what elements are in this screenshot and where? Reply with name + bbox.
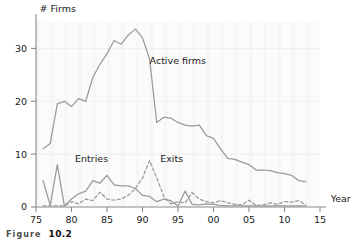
background-stripe bbox=[235, 22, 239, 207]
background-stripe bbox=[79, 22, 83, 207]
x-axis-ticks: 758085909500051015 bbox=[30, 207, 326, 225]
y-tick-label: 0 bbox=[21, 201, 27, 212]
series-label-entries: Entries bbox=[75, 153, 108, 164]
figure-caption-word: Figure bbox=[6, 230, 42, 239]
background-stripe bbox=[135, 22, 139, 207]
background-stripe bbox=[249, 22, 253, 207]
x-tick-label: 90 bbox=[136, 214, 148, 225]
line-chart: 0102030 758085909500051015 Active firmsE… bbox=[0, 0, 354, 246]
x-tick-label: 95 bbox=[172, 214, 184, 225]
background-stripe bbox=[178, 22, 182, 207]
background-stripes bbox=[36, 22, 320, 207]
figure-caption-number: 10.2 bbox=[49, 229, 72, 239]
x-tick-label: 85 bbox=[101, 214, 113, 225]
background-stripe bbox=[192, 22, 196, 207]
axis-title-year: Year bbox=[330, 193, 351, 204]
y-axis-ticks: 0102030 bbox=[15, 43, 36, 213]
x-tick-label: 80 bbox=[65, 214, 77, 225]
figure-caption: Figure 10.2 bbox=[6, 229, 72, 239]
x-tick-label: 10 bbox=[278, 214, 290, 225]
background-stripe bbox=[50, 22, 54, 207]
x-tick-label: 15 bbox=[314, 214, 326, 225]
series-label-active-firms: Active firms bbox=[150, 55, 206, 66]
y-tick-label: 20 bbox=[15, 96, 27, 107]
background-stripe bbox=[64, 22, 68, 207]
background-stripe bbox=[263, 22, 267, 207]
background-stripe bbox=[164, 22, 168, 207]
series-label-exits: Exits bbox=[160, 153, 183, 164]
axis-title-firms: # Firms bbox=[40, 3, 76, 14]
background-stripe bbox=[306, 22, 310, 207]
background-stripe bbox=[93, 22, 97, 207]
background-stripe bbox=[121, 22, 125, 207]
background-stripe bbox=[277, 22, 281, 207]
y-tick-label: 30 bbox=[15, 43, 27, 54]
background-stripe bbox=[206, 22, 210, 207]
x-tick-label: 75 bbox=[30, 214, 42, 225]
y-tick-label: 10 bbox=[15, 149, 27, 160]
x-tick-label: 05 bbox=[243, 214, 255, 225]
x-tick-label: 00 bbox=[207, 214, 219, 225]
background-stripe bbox=[221, 22, 225, 207]
background-stripe bbox=[150, 22, 154, 207]
figure-container: 0102030 758085909500051015 Active firmsE… bbox=[0, 0, 354, 246]
background-stripe bbox=[292, 22, 296, 207]
